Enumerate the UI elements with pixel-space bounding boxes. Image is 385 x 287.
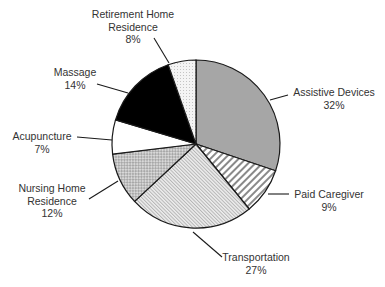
leader-line-assistive (270, 95, 288, 100)
label-percent: 7% (13, 143, 72, 156)
label-acupuncture: Acupuncture 7% (13, 130, 72, 155)
leader-line-massage (97, 84, 128, 93)
label-percent: 27% (222, 264, 289, 277)
label-percent: 8% (92, 33, 174, 46)
label-text: Residence (18, 195, 85, 208)
leader-line-transport (193, 232, 222, 257)
label-text: Massage (54, 66, 97, 79)
label-transportation: Transportation 27% (222, 251, 289, 276)
label-massage: Massage 14% (54, 66, 97, 91)
label-assistive-devices: Assistive Devices 32% (293, 86, 375, 111)
label-text: Assistive Devices (293, 86, 375, 99)
label-text: Residence (92, 21, 174, 34)
label-percent: 12% (18, 207, 85, 220)
label-text: Retirement Home (92, 8, 174, 21)
leader-line-acupuncture (77, 137, 112, 140)
label-percent: 32% (293, 99, 375, 112)
label-text: Nursing Home (18, 182, 85, 195)
leader-line-nursing (89, 181, 118, 199)
label-text: Acupuncture (13, 130, 72, 143)
label-percent: 9% (294, 201, 363, 214)
pie-chart: Retirement Home Residence 8% Massage 14%… (0, 0, 385, 287)
label-retirement-home-residence: Retirement Home Residence 8% (92, 8, 174, 46)
label-percent: 14% (54, 79, 97, 92)
label-paid-caregiver: Paid Caregiver 9% (294, 188, 363, 213)
label-text: Transportation (222, 251, 289, 264)
label-nursing-home-residence: Nursing Home Residence 12% (18, 182, 85, 220)
label-text: Paid Caregiver (294, 188, 363, 201)
